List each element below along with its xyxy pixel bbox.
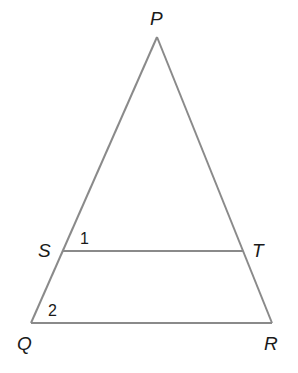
segment-pr xyxy=(157,37,272,323)
angle-2-label: 2 xyxy=(48,302,57,319)
segment-pq xyxy=(31,37,157,323)
angle-1-label: 1 xyxy=(80,230,89,247)
label-q: Q xyxy=(17,333,32,354)
label-s: S xyxy=(38,240,51,261)
label-p: P xyxy=(150,8,163,29)
triangle-diagram: P S T Q R 1 2 xyxy=(0,0,298,373)
label-r: R xyxy=(264,333,278,354)
label-t: T xyxy=(252,240,265,261)
